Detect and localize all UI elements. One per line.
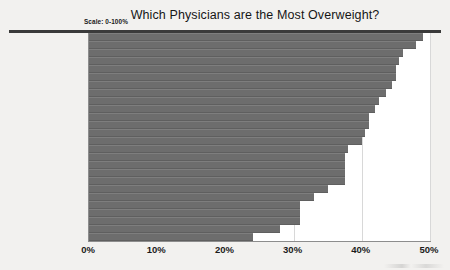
bar-row: Urology	[89, 121, 430, 129]
bar-row: Cardiology	[89, 97, 430, 105]
bar-row: Allergy & Clinical Immunology	[89, 209, 430, 217]
bar-row: Radiology	[89, 169, 430, 177]
bar-row: Family Medicine	[89, 41, 430, 49]
bar-row: HIV/Infectious Diseases	[89, 145, 430, 153]
bar	[89, 105, 375, 113]
bar-row: Critical Care	[89, 57, 430, 65]
bar	[89, 81, 392, 89]
x-axis-tick-label: 40%	[351, 244, 370, 255]
bar-row: Pathology	[89, 153, 430, 161]
bar-row: Dermatology	[89, 233, 430, 241]
bar	[89, 33, 423, 41]
bar-row: Anesthesiology	[89, 89, 430, 97]
x-axis-tick-label: 10%	[147, 244, 166, 255]
bar	[89, 145, 348, 153]
bar	[89, 113, 369, 121]
bar-row: Pediatrics	[89, 177, 430, 185]
bar	[89, 201, 300, 209]
gridline	[430, 33, 431, 241]
bar-row: Plastic Surgery	[89, 217, 430, 225]
bar	[89, 233, 253, 241]
bar-row: Ophthalmology	[89, 225, 430, 233]
bar-row: Ob/Gyn & Women's Health	[89, 73, 430, 81]
bar	[89, 49, 403, 57]
plot-area: General SurgeryFamily MedicineGastroente…	[88, 33, 431, 241]
bar	[89, 185, 328, 193]
chart-title: Which Physicians are the Most Overweight…	[0, 8, 450, 22]
bar	[89, 209, 300, 217]
bar	[89, 97, 379, 105]
bar	[89, 137, 362, 145]
bar	[89, 153, 345, 161]
bar	[89, 73, 396, 81]
scale-annotation: Scale: 0-100%	[84, 18, 128, 25]
x-axis-tick-label: 20%	[215, 244, 234, 255]
bar-series: General SurgeryFamily MedicineGastroente…	[89, 33, 430, 241]
bar-row: Neurology	[89, 137, 430, 145]
bar	[89, 121, 369, 129]
bar-row: Psychiatry & Mental Health	[89, 129, 430, 137]
x-axis-tick-label: 50%	[419, 244, 438, 255]
bar	[89, 161, 345, 169]
bar	[89, 177, 345, 185]
bar	[89, 169, 345, 177]
bar	[89, 129, 365, 137]
bar-row: Oncology	[89, 161, 430, 169]
bar-row: Emergency Medicine	[89, 113, 430, 121]
bar	[89, 41, 416, 49]
bar-row: Nephrology	[89, 185, 430, 193]
bar-row: General Surgery	[89, 33, 430, 41]
bar-row: Rheumatology	[89, 193, 430, 201]
bar-row: Pulmonary Medicine	[89, 65, 430, 73]
bar-row: Gastroenterology	[89, 49, 430, 57]
bar	[89, 217, 300, 225]
scan-artifact	[384, 264, 444, 268]
x-axis: 0%10%20%30%40%50%	[88, 244, 429, 260]
bar	[89, 65, 396, 73]
bar-row: Diabetes & Endocrinology	[89, 201, 430, 209]
bar-row: Orthopedics	[89, 81, 430, 89]
x-axis-tick-label: 0%	[81, 244, 95, 255]
bar	[89, 89, 386, 97]
chart-figure: Which Physicians are the Most Overweight…	[0, 0, 450, 270]
bar	[89, 57, 399, 65]
bar-row: Internal Medicine	[89, 105, 430, 113]
bar	[89, 193, 314, 201]
bar	[89, 225, 280, 233]
x-axis-tick-label: 30%	[283, 244, 302, 255]
